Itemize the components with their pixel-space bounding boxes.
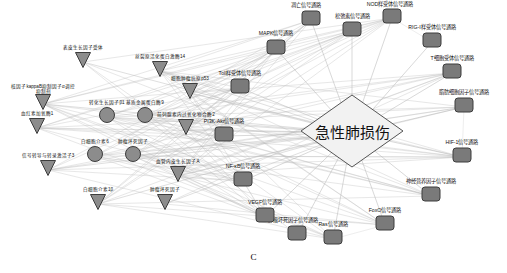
gene-node[interactable] bbox=[170, 166, 187, 187]
pathway-node[interactable] bbox=[375, 215, 395, 235]
edge bbox=[83, 62, 333, 239]
pathway-node[interactable] bbox=[442, 63, 462, 83]
gene-node[interactable] bbox=[182, 83, 199, 104]
pathway-node[interactable] bbox=[233, 171, 253, 191]
gene-node[interactable] bbox=[29, 118, 46, 139]
pathway-node[interactable] bbox=[266, 39, 286, 59]
pathway-node[interactable] bbox=[323, 229, 343, 249]
hub-node-acute-lung-injury[interactable] bbox=[300, 94, 404, 172]
pathway-node[interactable] bbox=[287, 225, 307, 245]
gene-node[interactable] bbox=[125, 146, 142, 167]
gene-node[interactable] bbox=[87, 146, 104, 167]
pathway-node[interactable] bbox=[422, 32, 442, 52]
pathway-node[interactable] bbox=[382, 8, 402, 28]
edge bbox=[98, 196, 431, 204]
gene-node[interactable] bbox=[157, 194, 174, 215]
pathway-node[interactable] bbox=[342, 21, 362, 41]
gene-node[interactable] bbox=[99, 107, 116, 128]
pathway-node[interactable] bbox=[454, 97, 474, 117]
gene-node[interactable] bbox=[40, 160, 57, 181]
pathway-node[interactable] bbox=[452, 147, 472, 167]
figure-canvas: 急性肺损伤血红素加氧酶1核因子kappaB抑制因子α调控抑制剂表皮生长因子受体转… bbox=[0, 0, 507, 273]
edge bbox=[186, 20, 311, 129]
gene-node[interactable] bbox=[152, 61, 169, 82]
gene-node[interactable] bbox=[35, 94, 52, 115]
gene-node[interactable] bbox=[90, 194, 107, 215]
gene-node[interactable] bbox=[137, 107, 154, 128]
pathway-node[interactable] bbox=[214, 126, 234, 146]
pathway-node[interactable] bbox=[230, 78, 250, 98]
gene-node[interactable] bbox=[178, 119, 195, 140]
edge bbox=[43, 88, 240, 104]
figure-caption: C bbox=[0, 252, 507, 262]
pathway-node[interactable] bbox=[255, 207, 275, 227]
pathway-node[interactable] bbox=[421, 186, 441, 206]
gene-node[interactable] bbox=[75, 52, 92, 73]
pathway-node[interactable] bbox=[301, 10, 321, 30]
edge bbox=[160, 20, 311, 71]
